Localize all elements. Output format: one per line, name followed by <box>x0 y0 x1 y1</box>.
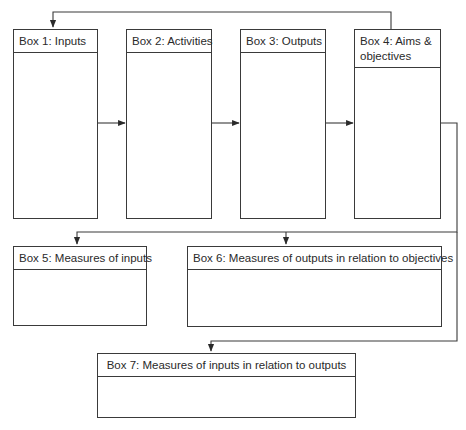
box-aims-label-line2: objectives <box>360 49 435 64</box>
box-outputs: Box 3: Outputs <box>240 29 326 219</box>
box-outputs-label: Box 3: Outputs <box>241 30 325 53</box>
box-aims-label-line1: Box 4: Aims & <box>360 34 435 49</box>
box-measures-inputs-outputs-label: Box 7: Measures of inputs in relation to… <box>98 354 355 377</box>
box-measures-outputs-objectives: Box 6: Measures of outputs in relation t… <box>187 246 442 327</box>
box-aims-objectives: Box 4: Aims & objectives <box>354 29 441 219</box>
box-activities-label: Box 2: Activities <box>127 30 211 53</box>
box-measures-outputs-objectives-label: Box 6: Measures of outputs in relation t… <box>188 247 441 270</box>
box-inputs: Box 1: Inputs <box>13 29 98 219</box>
box-inputs-label: Box 1: Inputs <box>14 30 97 53</box>
box-measures-inputs-outputs: Box 7: Measures of inputs in relation to… <box>97 353 356 418</box>
box-measures-of-inputs: Box 5: Measures of inputs <box>13 246 147 326</box>
box-activities: Box 2: Activities <box>126 29 212 219</box>
box-aims-objectives-label: Box 4: Aims & objectives <box>355 30 440 68</box>
box-measures-of-inputs-label: Box 5: Measures of inputs <box>14 247 146 270</box>
